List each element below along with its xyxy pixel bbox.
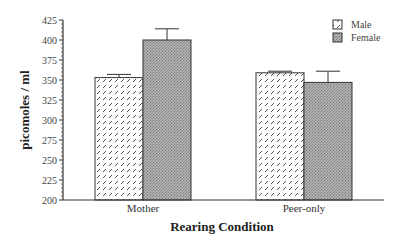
y-tick-label: 400: [42, 35, 57, 46]
legend-swatch-female: [333, 33, 342, 42]
y-tick-label: 275: [42, 135, 57, 146]
y-tick-label: 325: [42, 95, 57, 106]
bar-chart: 200225250275300325350375400425 MotherPee…: [0, 0, 401, 236]
x-category-label: Mother: [127, 202, 160, 214]
y-tick-label: 250: [42, 155, 57, 166]
bar-female-peer-only: [304, 82, 352, 200]
x-axis: MotherPeer-only: [63, 200, 384, 214]
y-tick-label: 425: [42, 15, 57, 26]
legend-swatch-male: [333, 20, 342, 29]
bar-male-mother: [95, 78, 143, 200]
y-tick-label: 350: [42, 75, 57, 86]
bar-female-mother: [143, 40, 191, 200]
legend-label-female: Female: [351, 32, 381, 43]
legend: MaleFemale: [333, 19, 381, 43]
y-axis: 200225250275300325350375400425: [42, 15, 63, 206]
bars: [95, 29, 352, 200]
y-axis-title: picomoles / ml: [17, 70, 32, 150]
y-tick-label: 225: [42, 175, 57, 186]
x-axis-title: Rearing Condition: [170, 219, 274, 234]
bar-male-peer-only: [256, 73, 304, 200]
legend-label-male: Male: [351, 19, 372, 30]
y-tick-label: 375: [42, 55, 57, 66]
y-tick-label: 200: [42, 195, 57, 206]
x-category-label: Peer-only: [283, 202, 326, 214]
y-tick-label: 300: [42, 115, 57, 126]
